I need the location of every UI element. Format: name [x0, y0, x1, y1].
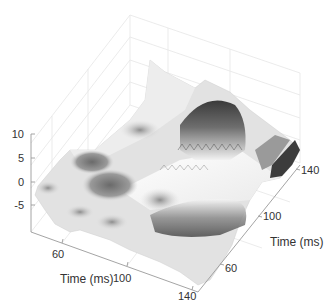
z-tick-label: 10	[12, 128, 24, 140]
y-tick-label: 140	[301, 164, 319, 176]
x-axis-label: Time (ms)	[60, 272, 114, 286]
z-tick-label: 0	[18, 176, 24, 188]
x-tick-label: 100	[113, 272, 131, 284]
y-axis-label: Time (ms)	[270, 235, 324, 249]
x-tick-label: 60	[52, 248, 64, 260]
z-tick-label: -5	[14, 199, 24, 211]
surface-plot: 10 5 0 -5 60 100 140 Time (ms) 60 100 14…	[0, 0, 333, 303]
surface	[35, 60, 300, 285]
y-tick-label: 100	[263, 210, 281, 222]
x-tick-label: 140	[178, 290, 196, 302]
z-tick-label: 5	[18, 152, 24, 164]
y-tick-label: 60	[225, 262, 237, 274]
